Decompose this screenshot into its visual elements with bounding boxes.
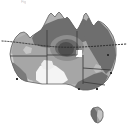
- australia-map-svg: [0, 0, 128, 127]
- core-ring-inner: [58, 42, 74, 56]
- marker-southeast: [96, 88, 98, 90]
- tasmania-group: [88, 104, 108, 126]
- marker-northeast: [107, 54, 109, 56]
- australia-map-figure: Fig: [0, 0, 128, 127]
- mainland-shading-group: [0, 0, 128, 127]
- marker-south: [78, 88, 80, 90]
- marker-east: [110, 72, 112, 74]
- marker-southwest: [16, 78, 18, 80]
